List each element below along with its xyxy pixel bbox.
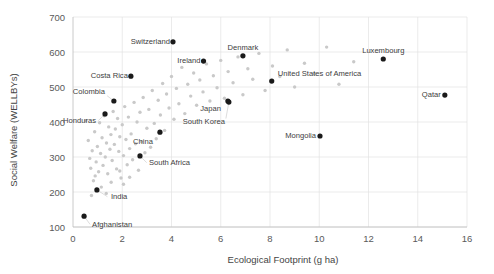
data-point-background xyxy=(125,163,128,166)
data-point-background xyxy=(192,71,195,74)
data-point-background xyxy=(104,155,107,158)
data-point-label: China xyxy=(133,137,154,146)
data-point-highlighted xyxy=(201,59,206,64)
data-point-background xyxy=(263,89,266,92)
chart-canvas: SwitzerlandDenmarkLuxembourgIrelandCosta… xyxy=(0,0,494,274)
data-point-label: Afghanistan xyxy=(92,220,132,229)
data-point-background xyxy=(138,111,141,114)
data-point-background xyxy=(129,132,132,135)
data-point-background xyxy=(198,78,201,81)
data-point-background xyxy=(94,160,97,163)
data-point-background xyxy=(113,143,116,146)
data-point-background xyxy=(172,118,175,121)
data-point-background xyxy=(106,172,109,175)
data-point-background xyxy=(226,70,229,73)
data-point-background xyxy=(147,108,150,111)
data-point-background xyxy=(141,96,144,99)
scatter-chart: SwitzerlandDenmarkLuxembourgIrelandCosta… xyxy=(0,0,494,274)
y-tick-label: 700 xyxy=(49,12,65,23)
data-point-background xyxy=(246,67,249,70)
data-point-label: United States of America xyxy=(278,69,362,78)
data-point-highlighted xyxy=(128,74,133,79)
data-point-background xyxy=(180,66,183,69)
y-tick-label: 600 xyxy=(49,47,65,58)
data-point-background xyxy=(271,64,274,67)
data-point-label: Denmark xyxy=(228,43,259,52)
data-point-background xyxy=(352,60,355,63)
data-point-background xyxy=(107,125,110,128)
data-point-highlighted xyxy=(317,133,322,138)
data-point-background xyxy=(195,104,198,107)
data-point-background xyxy=(122,183,125,186)
data-point-label: South Africa xyxy=(149,158,191,167)
data-point-background xyxy=(170,75,173,78)
data-point-background xyxy=(175,87,178,90)
data-point-background xyxy=(115,167,118,170)
data-point-background xyxy=(159,113,162,116)
data-point-background xyxy=(109,133,112,136)
data-point-labels: SwitzerlandDenmarkLuxembourgIrelandCosta… xyxy=(63,37,441,229)
data-point-highlighted xyxy=(111,98,116,103)
data-point-highlighted xyxy=(157,130,162,135)
data-point-background xyxy=(128,176,131,179)
data-point-label: Switzerland xyxy=(131,37,170,46)
data-point-background xyxy=(161,82,164,85)
data-point-background xyxy=(223,97,226,100)
data-point-background xyxy=(303,62,306,65)
y-tick-label: 200 xyxy=(49,187,65,198)
data-point-background xyxy=(167,106,170,109)
data-point-label: Japan xyxy=(200,104,221,113)
data-point-background xyxy=(186,83,189,86)
data-point-background xyxy=(183,112,186,115)
data-point-background xyxy=(337,83,340,86)
data-point-highlighted xyxy=(226,99,231,104)
data-point-label: Qatar xyxy=(422,90,441,99)
data-point-background xyxy=(100,185,103,188)
data-point-background xyxy=(119,176,122,179)
data-point-label: Ireland xyxy=(177,56,200,65)
data-point-background xyxy=(90,194,93,197)
y-tick-label: 300 xyxy=(49,152,65,163)
data-point-label: Honduras xyxy=(63,116,96,125)
data-point-background xyxy=(114,127,117,130)
data-point-background xyxy=(165,92,168,95)
data-point-label: Colombia xyxy=(73,87,106,96)
data-point-background xyxy=(177,102,180,105)
data-point-background xyxy=(137,169,140,172)
y-tick-label: 500 xyxy=(49,82,65,93)
gridlines xyxy=(73,17,467,227)
data-point-background xyxy=(93,174,96,177)
data-point-label: Luxembourg xyxy=(362,46,404,55)
data-point-background xyxy=(121,123,124,126)
x-tick-label: 4 xyxy=(169,233,174,244)
data-point-background xyxy=(89,167,92,170)
data-point-background xyxy=(251,78,254,81)
data-point-highlighted xyxy=(81,214,86,219)
data-point-background xyxy=(286,48,289,51)
data-point-background xyxy=(236,55,239,58)
data-point-background xyxy=(155,137,158,140)
data-point-label: South Korea xyxy=(183,117,226,126)
data-point-background xyxy=(97,170,100,173)
x-tick-label: 12 xyxy=(363,233,374,244)
data-point-background xyxy=(123,105,126,108)
data-point-background xyxy=(100,136,103,139)
data-point-background xyxy=(118,169,121,172)
data-point-highlighted xyxy=(102,111,107,116)
data-point-background xyxy=(122,154,125,157)
data-point-highlighted xyxy=(442,92,447,97)
data-point-background xyxy=(293,85,296,88)
x-tick-label: 10 xyxy=(314,233,325,244)
data-point-background xyxy=(99,152,102,155)
data-point-background xyxy=(101,164,104,167)
data-point-highlighted xyxy=(94,187,99,192)
y-tick-label: 100 xyxy=(49,222,65,233)
data-point-background xyxy=(208,99,211,102)
data-point-label: India xyxy=(111,192,128,201)
data-point-background xyxy=(108,148,111,151)
data-point-background xyxy=(151,89,154,92)
data-point-background xyxy=(118,135,121,138)
data-point-background xyxy=(231,81,234,84)
data-point-background xyxy=(215,86,218,89)
data-point-background xyxy=(257,52,260,55)
